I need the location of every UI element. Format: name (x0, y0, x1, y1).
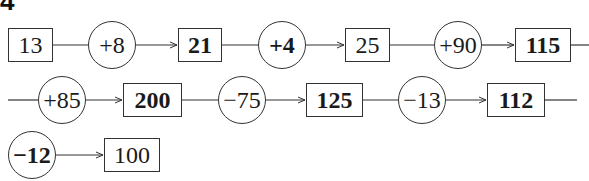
value-box: 125 (306, 83, 363, 117)
box-value: 21 (188, 32, 212, 59)
box-value: 25 (356, 32, 380, 59)
operation-circle: −12 (8, 131, 56, 179)
operation-value: −12 (13, 142, 51, 169)
operation-circle: −13 (398, 76, 446, 124)
box-value: 200 (135, 87, 171, 114)
value-box: 25 (345, 28, 390, 62)
operation-value: +85 (43, 87, 81, 114)
value-box: 13 (8, 28, 53, 62)
operation-value: −13 (403, 87, 441, 114)
value-box: 115 (515, 28, 571, 62)
box-value: 112 (499, 87, 534, 114)
box-value: 125 (317, 87, 353, 114)
operation-value: −75 (223, 87, 261, 114)
value-box: 112 (487, 83, 545, 117)
box-value: 115 (526, 32, 561, 59)
operation-circle: +8 (88, 21, 136, 69)
operation-circle: +90 (434, 21, 482, 69)
value-box: 200 (123, 83, 182, 117)
operation-circle: +4 (258, 21, 306, 69)
box-value: 13 (19, 32, 43, 59)
value-box: 100 (104, 138, 160, 172)
operation-circle: +85 (38, 76, 86, 124)
box-value: 100 (114, 142, 150, 169)
operation-value: +90 (439, 32, 477, 59)
value-box: 21 (178, 28, 222, 62)
operation-value: +4 (269, 32, 295, 59)
operation-value: +8 (99, 32, 125, 59)
operation-circle: −75 (218, 76, 266, 124)
